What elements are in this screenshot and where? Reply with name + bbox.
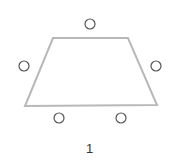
seat-circle-bottom-right [116,113,126,123]
seat-circle-top [85,19,95,29]
trapezoid-table [25,38,157,106]
seat-circle-left [19,61,29,71]
seat-circle-right [151,61,161,71]
diagram-label: 1 [0,141,179,157]
table-seating-diagram [0,0,179,161]
seat-circle-bottom-left [54,113,64,123]
